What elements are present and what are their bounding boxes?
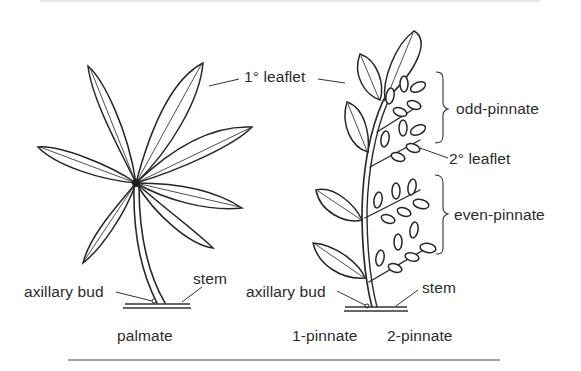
- secondary-leaflet-group: [365, 178, 430, 225]
- label-stem-palmate: stem: [193, 271, 227, 287]
- label-primary-leaflet: 1° leaflet: [244, 69, 306, 85]
- label-axillary-bud-pinnate: axillary bud: [246, 284, 326, 300]
- leader-secondary-leaflet: [420, 148, 448, 158]
- brace-odd-pinnate: [435, 72, 448, 143]
- leader-primary-leaflet: [209, 79, 239, 86]
- pinnate-leaf: [313, 31, 437, 311]
- leader-axillary-bud-right: [337, 291, 365, 305]
- primary-leaflet: [313, 243, 365, 278]
- leader-stem-left: [182, 287, 202, 302]
- secondary-leaflet-group: [369, 221, 437, 282]
- leader-axillary-bud-left: [116, 292, 152, 301]
- palmate-leaflet: [83, 183, 136, 263]
- label-secondary-leaflet: 2° leaflet: [449, 151, 511, 167]
- axillary-bud-palmate: [152, 299, 156, 303]
- caption-one-pinnate: 1-pinnate: [292, 328, 358, 344]
- label-axillary-bud-palmate: axillary bud: [24, 284, 104, 300]
- leader-primary-leaflet-right: [318, 79, 345, 83]
- brace-even-pinnate: [435, 175, 448, 254]
- primary-leaflet: [345, 102, 368, 152]
- leaf-arrangement-diagram: [0, 0, 581, 371]
- leader-stem-right: [396, 290, 418, 306]
- label-odd-pinnate: odd-pinnate: [456, 101, 539, 117]
- label-stem-pinnate: stem: [422, 280, 456, 296]
- primary-leaflet: [316, 189, 362, 221]
- primary-leaflet: [358, 54, 382, 100]
- caption-two-pinnate: 2-pinnate: [387, 328, 453, 344]
- label-even-pinnate: even-pinnate: [454, 207, 545, 223]
- caption-palmate: palmate: [117, 328, 173, 344]
